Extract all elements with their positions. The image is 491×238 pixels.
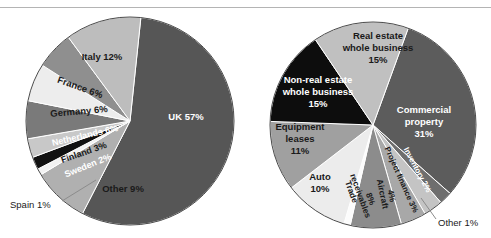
pie-charts-container: UK 57%Other 9%Sweden 2%Finland 3%Netherl… — [0, 0, 491, 238]
slice-label: Other 9% — [102, 183, 144, 194]
slice-label: 11% — [291, 145, 310, 156]
slice-label: Non-real estate — [284, 74, 353, 85]
slice-label: 15% — [368, 54, 388, 65]
slice-label: Auto — [309, 171, 331, 182]
slice-label: Italy 12% — [82, 51, 123, 62]
slice-label: leases — [285, 133, 314, 144]
pie-chart-european-securitisation-by-country: UK 57%Other 9%Sweden 2%Finland 3%Netherl… — [10, 17, 234, 225]
slice-label: whole business — [342, 42, 414, 53]
slice-label: 15% — [308, 98, 328, 109]
chart-page: UK 57%Other 9%Sweden 2%Finland 3%Netherl… — [0, 0, 491, 238]
slice-label: 10% — [310, 183, 330, 194]
slice-label: Commercial — [397, 104, 451, 115]
slice-label: 31% — [414, 128, 434, 139]
pie-chart-european-securitisation-by-asset-class: Commercialproperty31%Inventory 2%Project… — [270, 22, 479, 228]
slice-label: Equipment — [275, 121, 325, 132]
pie-charts-svg: UK 57%Other 9%Sweden 2%Finland 3%Netherl… — [0, 0, 491, 238]
slice-label: Real estate — [353, 30, 403, 41]
slice-label: whole business — [282, 86, 354, 97]
callout-label: Other 1% — [438, 217, 479, 228]
callout-label: Spain 1% — [10, 199, 51, 210]
slice-label: property — [405, 116, 444, 127]
slice-label: UK 57% — [168, 111, 204, 122]
